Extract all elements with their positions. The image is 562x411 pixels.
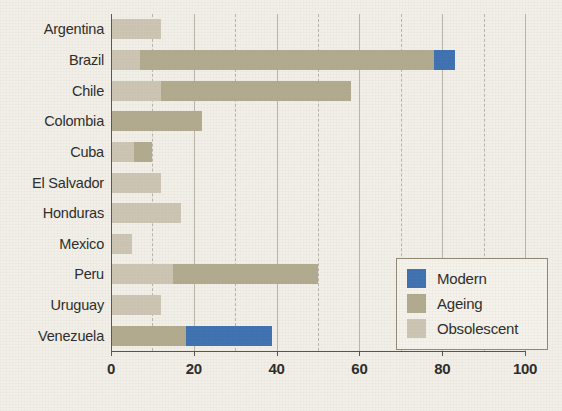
legend-item-ageing[interactable]: Ageing <box>407 291 538 316</box>
x-axis-tick-labels: 020406080100 <box>0 360 562 386</box>
legend-swatch-ageing <box>407 294 426 313</box>
bar-row <box>111 19 161 39</box>
x-tick-mark-20 <box>194 351 195 356</box>
legend-label-obsolescent: Obsolescent <box>437 320 518 337</box>
x-tick-label-100: 100 <box>513 360 537 377</box>
x-tick-mark-80 <box>442 351 443 356</box>
x-axis-line <box>111 351 526 352</box>
bar-segment-obsolescent <box>111 295 161 315</box>
y-axis-line <box>111 14 112 351</box>
y-axis-label-venezuela: Venezuela <box>0 328 104 344</box>
y-axis-category-labels: ArgentinaBrazilChileColombiaCubaEl Salva… <box>0 0 104 411</box>
y-axis-label-honduras: Honduras <box>0 205 104 221</box>
bar-segment-ageing <box>111 326 186 346</box>
bar-row <box>111 142 152 162</box>
legend-swatch-obsolescent <box>407 319 426 338</box>
y-axis-label-mexico: Mexico <box>0 236 104 252</box>
y-axis-label-cuba: Cuba <box>0 144 104 160</box>
bar-row <box>111 81 351 101</box>
bar-segment-ageing <box>140 50 434 70</box>
bar-chart: ArgentinaBrazilChileColombiaCubaEl Salva… <box>0 0 562 411</box>
bar-row <box>111 234 132 254</box>
bar-row <box>111 173 161 193</box>
y-axis-label-peru: Peru <box>0 266 104 282</box>
legend-item-modern[interactable]: Modern <box>407 266 538 291</box>
x-tick-mark-40 <box>277 351 278 356</box>
x-tick-label-40: 40 <box>269 360 285 377</box>
bar-row <box>111 264 318 284</box>
bar-segment-ageing <box>173 264 318 284</box>
y-axis-label-uruguay: Uruguay <box>0 297 104 313</box>
bar-segment-obsolescent <box>111 203 181 223</box>
chart-legend: ModernAgeingObsolescent <box>396 258 548 350</box>
y-axis-label-chile: Chile <box>0 83 104 99</box>
bar-segment-obsolescent <box>111 50 140 70</box>
bar-segment-ageing <box>111 111 202 131</box>
bar-segment-ageing <box>134 142 153 162</box>
bar-row <box>111 326 272 346</box>
bar-segment-obsolescent <box>111 142 134 162</box>
bar-row <box>111 50 455 70</box>
y-axis-label-el-salvador: El Salvador <box>0 175 104 191</box>
bar-segment-modern <box>434 50 455 70</box>
bar-segment-obsolescent <box>111 264 173 284</box>
x-tick-mark-100 <box>525 351 526 356</box>
legend-item-obsolescent[interactable]: Obsolescent <box>407 316 538 341</box>
x-tick-label-80: 80 <box>434 360 450 377</box>
x-tick-label-20: 20 <box>186 360 202 377</box>
bar-row <box>111 111 202 131</box>
x-tick-label-0: 0 <box>107 360 115 377</box>
bar-segment-modern <box>186 326 273 346</box>
bar-segment-obsolescent <box>111 19 161 39</box>
bar-segment-obsolescent <box>111 234 132 254</box>
bar-segment-obsolescent <box>111 173 161 193</box>
y-axis-label-brazil: Brazil <box>0 52 104 68</box>
y-axis-label-argentina: Argentina <box>0 21 104 37</box>
bar-segment-ageing <box>161 81 351 101</box>
x-tick-label-60: 60 <box>351 360 367 377</box>
bar-segment-obsolescent <box>111 81 161 101</box>
legend-swatch-modern <box>407 269 426 288</box>
x-tick-mark-60 <box>359 351 360 356</box>
bar-row <box>111 295 161 315</box>
bar-row <box>111 203 181 223</box>
y-axis-label-colombia: Colombia <box>0 113 104 129</box>
x-tick-mark-0 <box>111 351 112 356</box>
legend-label-ageing: Ageing <box>437 295 483 312</box>
legend-label-modern: Modern <box>437 270 487 287</box>
